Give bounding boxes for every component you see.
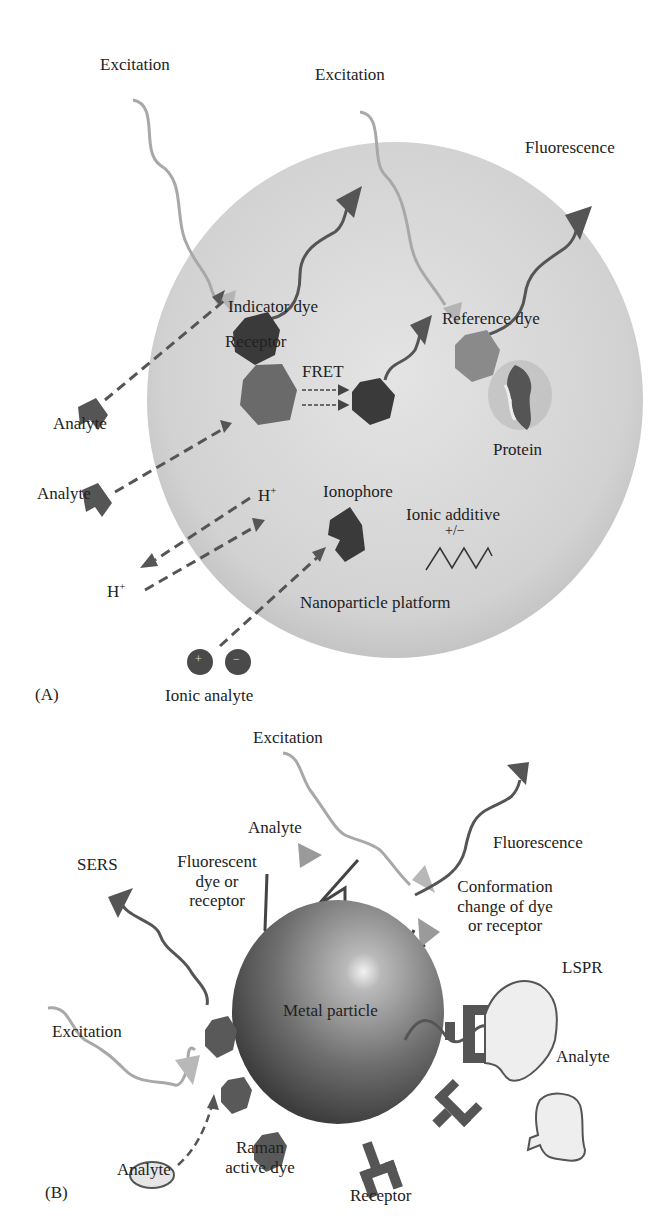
label-analyte-a2: Analyte xyxy=(37,484,91,504)
label-excitation-b-top: Excitation xyxy=(253,728,323,748)
label-conformation: Conformation change of dye or receptor xyxy=(440,877,570,936)
label-analyte-b-bottom: Analyte xyxy=(117,1160,171,1180)
label-h-plus-1: H+ xyxy=(258,484,277,505)
excitation-arrowhead-b-left xyxy=(175,1055,200,1085)
proton-out-arrow xyxy=(140,553,158,568)
label-ionic-analyte: Ionic analyte xyxy=(165,686,253,706)
protein-icon xyxy=(488,360,552,430)
label-ionic-additive-sign: +/− xyxy=(445,523,465,539)
label-fluorescent-dye: Fluorescent dye or receptor xyxy=(162,852,272,911)
label-conformation-line-1: Conformation xyxy=(440,877,570,897)
analyte-free-blob-icon xyxy=(528,1094,585,1161)
raman-dye-icon-1 xyxy=(205,1016,237,1058)
analyte-bound-blob-icon xyxy=(485,981,557,1080)
label-raman-line-2: active dye xyxy=(215,1158,305,1178)
analyte-triangle-icon xyxy=(298,843,322,868)
label-excitation-b-left: Excitation xyxy=(52,1022,122,1042)
label-fluorescent-dye-line-1: Fluorescent xyxy=(162,852,272,872)
panel-b-label: (B) xyxy=(45,1183,68,1203)
analyte-bottom-path xyxy=(178,1105,212,1165)
label-conformation-line-3: or receptor xyxy=(440,916,570,936)
label-fret: FRET xyxy=(302,362,344,382)
label-conformation-line-2: change of dye xyxy=(440,897,570,917)
label-ionophore: Ionophore xyxy=(323,482,393,502)
analyte-bottom-arrow xyxy=(207,1094,219,1110)
label-analyte-b-right: Analyte xyxy=(556,1047,610,1067)
anion-sign: − xyxy=(233,653,240,667)
label-sers: SERS xyxy=(77,855,118,875)
label-fluorescent-dye-line-3: receptor xyxy=(162,891,272,911)
label-metal-particle: Metal particle xyxy=(283,1001,378,1021)
label-analyte-a1: Analyte xyxy=(53,414,107,434)
sers-wave xyxy=(120,900,207,1005)
label-protein: Protein xyxy=(493,440,542,460)
label-fluorescence-a: Fluorescence xyxy=(525,138,615,158)
fluorescence-arrowhead-b xyxy=(507,762,529,785)
excitation-wave-b-left xyxy=(48,1008,195,1085)
receptor-clamp-2 xyxy=(422,1079,483,1140)
label-h-plus-2: H+ xyxy=(107,580,126,601)
label-fluorescence-b: Fluorescence xyxy=(493,833,583,853)
label-nanoparticle-platform: Nanoparticle platform xyxy=(300,593,451,613)
panel-a-label: (A) xyxy=(35,685,59,705)
label-fluorescent-dye-line-2: dye or xyxy=(162,872,272,892)
label-receptor-a: Receptor xyxy=(225,332,286,352)
label-reference-dye: Reference dye xyxy=(442,309,540,329)
label-excitation-1: Excitation xyxy=(100,55,170,75)
label-raman: Raman active dye xyxy=(215,1138,305,1177)
label-raman-line-1: Raman xyxy=(215,1138,305,1158)
label-receptor-b: Receptor xyxy=(350,1186,411,1206)
label-excitation-2: Excitation xyxy=(315,65,385,85)
cation-sign: + xyxy=(195,653,202,667)
label-analyte-b-top: Analyte xyxy=(248,818,302,838)
label-lspr: LSPR xyxy=(562,958,603,978)
label-indicator-dye: Indicator dye xyxy=(228,297,318,317)
label-ionic-additive: Ionic additive xyxy=(406,505,500,525)
raman-dye-icon-2 xyxy=(221,1077,252,1114)
excitation-arrowhead-b-top xyxy=(412,865,435,893)
